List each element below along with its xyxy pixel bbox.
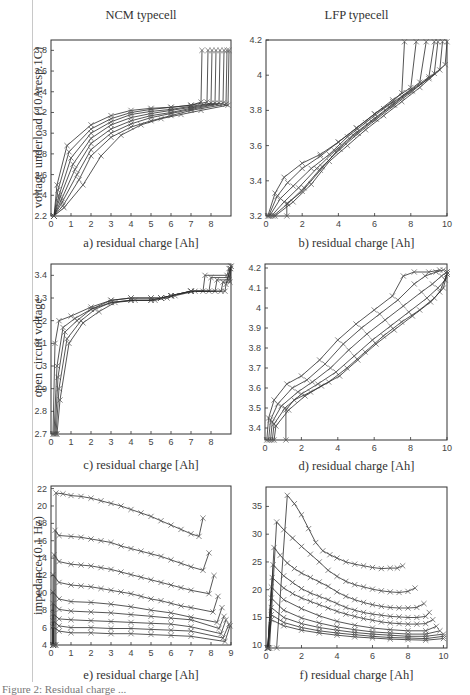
svg-text:12: 12 [37,570,47,580]
svg-text:4: 4 [128,437,133,447]
svg-text:1: 1 [68,219,73,229]
svg-text:3.8: 3.8 [248,343,261,353]
svg-text:2: 2 [88,648,93,658]
svg-text:2.7: 2.7 [34,429,47,439]
svg-text:2: 2 [299,651,304,661]
svg-text:9: 9 [228,648,233,658]
svg-text:2.8: 2.8 [34,406,47,416]
svg-text:4: 4 [334,651,339,661]
svg-text:3.4: 3.4 [34,270,47,280]
svg-text:3.6: 3.6 [249,141,262,151]
svg-text:2: 2 [88,437,93,447]
caption-e: e) residual charge [Ah] [51,668,231,683]
svg-text:3.9: 3.9 [248,323,261,333]
svg-text:3.4: 3.4 [248,423,261,433]
svg-text:3.6: 3.6 [34,66,47,76]
svg-text:10: 10 [442,219,452,229]
svg-text:0: 0 [263,219,268,229]
svg-text:4: 4 [42,640,47,650]
svg-text:2: 2 [299,443,304,453]
svg-text:10: 10 [252,640,262,650]
svg-text:7: 7 [188,648,193,658]
svg-text:8: 8 [208,219,213,229]
svg-text:10: 10 [438,651,448,661]
figure-caption: Figure 2: Residual charge ... [2,683,126,695]
svg-text:5: 5 [148,648,153,658]
svg-text:4: 4 [257,70,262,80]
svg-text:2.9: 2.9 [34,384,47,394]
svg-text:0: 0 [48,437,53,447]
caption-f: f) residual charge [Ah] [266,668,447,683]
svg-text:3.1: 3.1 [34,338,47,348]
svg-text:35: 35 [252,501,262,511]
svg-text:14: 14 [37,553,47,563]
svg-text:25: 25 [252,557,262,567]
svg-text:3.5: 3.5 [248,403,261,413]
svg-text:1: 1 [68,648,73,658]
chart-b-lfp-voltage-underload: 02468103.23.43.63.844.2 [266,40,447,216]
svg-text:0: 0 [48,219,53,229]
svg-text:6: 6 [372,219,377,229]
svg-text:6: 6 [168,437,173,447]
svg-text:7: 7 [188,437,193,447]
svg-text:3.7: 3.7 [248,363,261,373]
caption-d: d) residual charge [Ah] [266,459,447,474]
svg-text:3: 3 [108,648,113,658]
svg-text:3.8: 3.8 [249,105,262,115]
svg-text:3.6: 3.6 [248,383,261,393]
svg-text:0: 0 [263,651,268,661]
svg-text:0: 0 [48,648,53,658]
ncm-column-title: NCM typecell [51,8,231,23]
caption-c: c) residual charge [Ah] [51,458,231,473]
svg-text:4.2: 4.2 [249,35,262,45]
svg-text:22: 22 [37,484,47,494]
svg-text:16: 16 [37,536,47,546]
chart-a-ncm-voltage-underload: 0123456782.22.42.62.833.23.43.63.8 [51,40,231,216]
svg-text:3.8: 3.8 [34,45,47,55]
svg-text:8: 8 [42,605,47,615]
svg-text:8: 8 [208,437,213,447]
caption-b: b) residual charge [Ah] [266,236,447,251]
svg-text:20: 20 [252,585,262,595]
svg-text:6: 6 [168,219,173,229]
svg-text:3: 3 [42,361,47,371]
svg-text:5: 5 [148,219,153,229]
svg-text:15: 15 [252,612,262,622]
svg-text:4.2: 4.2 [248,263,261,273]
svg-text:4: 4 [128,219,133,229]
svg-text:4: 4 [335,443,340,453]
svg-text:5: 5 [148,437,153,447]
svg-text:3: 3 [42,128,47,138]
svg-text:8: 8 [408,219,413,229]
svg-text:2: 2 [300,219,305,229]
svg-text:4: 4 [128,648,133,658]
svg-text:3: 3 [108,437,113,447]
svg-text:2.8: 2.8 [34,149,47,159]
svg-text:18: 18 [37,518,47,528]
svg-text:6: 6 [370,651,375,661]
svg-text:3.2: 3.2 [34,107,47,117]
svg-text:3: 3 [108,219,113,229]
svg-text:3.2: 3.2 [249,211,262,221]
svg-text:6: 6 [42,623,47,633]
svg-text:2: 2 [88,219,93,229]
svg-text:8: 8 [405,651,410,661]
svg-text:10: 10 [442,443,452,453]
svg-text:8: 8 [408,443,413,453]
svg-text:20: 20 [37,501,47,511]
svg-text:2.6: 2.6 [34,170,47,180]
svg-text:3.4: 3.4 [34,87,47,97]
chart-f-lfp-impedance: 0246810101520253035 [266,487,447,648]
svg-text:3.2: 3.2 [34,316,47,326]
svg-text:1: 1 [68,437,73,447]
chart-e-ncm-impedance: 012345678946810121416182022 [51,486,231,645]
svg-text:3.3: 3.3 [34,293,47,303]
caption-a: a) residual charge [Ah] [51,236,231,251]
svg-text:8: 8 [208,648,213,658]
svg-text:30: 30 [252,529,262,539]
svg-text:10: 10 [37,588,47,598]
svg-text:2.2: 2.2 [34,211,47,221]
svg-text:3.4: 3.4 [249,176,262,186]
svg-text:4.1: 4.1 [248,283,261,293]
svg-text:2.4: 2.4 [34,190,47,200]
